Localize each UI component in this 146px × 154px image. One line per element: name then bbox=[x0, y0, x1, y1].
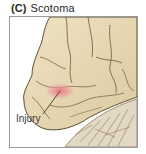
panel-title: (C)Scotoma bbox=[11, 2, 75, 14]
panel-letter: (C) bbox=[11, 2, 27, 14]
panel-title-text: Scotoma bbox=[31, 2, 75, 14]
brain-illustration bbox=[10, 17, 137, 147]
injury-label: Injury bbox=[16, 113, 40, 124]
illustration-frame bbox=[9, 16, 138, 148]
